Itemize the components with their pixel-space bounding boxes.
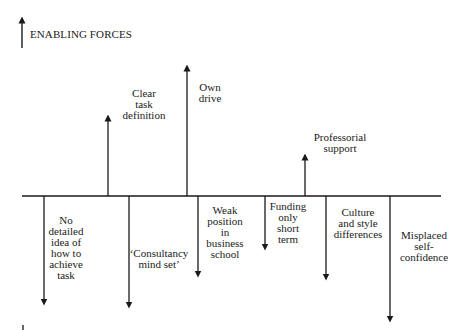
label-line: school [202, 249, 248, 260]
label-no-detailed-idea: No detailed idea of how to achieve task [46, 215, 86, 281]
label-clear-task-definition: Clear task definition [114, 88, 174, 121]
label-culture-style-differences: Culture and style differences [331, 207, 385, 240]
enabling-forces-title: ENABLING FORCES [30, 28, 132, 40]
label-line: term [266, 234, 310, 245]
label-weak-position: Weak position in business school [202, 205, 248, 260]
label-consultancy-mind-set: ‘Consultancy mind set’ [128, 248, 190, 270]
label-line: confidence [396, 252, 452, 263]
label-line: task [46, 270, 86, 281]
label-misplaced-self-confidence: Misplaced self- confidence [396, 230, 452, 263]
label-funding-short-term: Funding only short term [266, 201, 310, 245]
label-line: definition [114, 110, 174, 121]
label-professorial-support: Professorial support [300, 132, 380, 154]
label-own-drive: Own drive [193, 82, 227, 104]
label-line: support [300, 143, 380, 154]
label-line: differences [331, 229, 385, 240]
label-line: mind set’ [128, 259, 190, 270]
label-line: drive [193, 93, 227, 104]
